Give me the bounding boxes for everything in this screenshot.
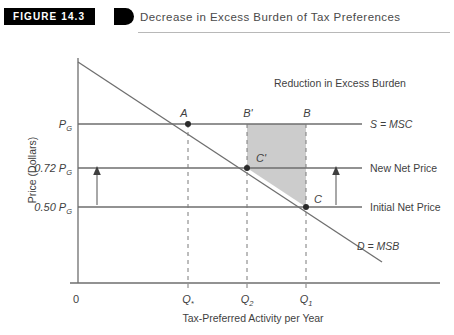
figure-number-tag: FIGURE 14.3 <box>4 8 95 25</box>
point-label-b-prime: B' <box>243 107 253 119</box>
point-marker-c <box>303 204 309 210</box>
price-increase-arrow-right <box>332 166 340 205</box>
y-tick-label-050-pg: 0.50 PG <box>34 201 72 216</box>
series-label-new-net-price: New Net Price <box>370 162 437 174</box>
series-label-demand-msb: D = MSB <box>357 240 399 252</box>
y-tick-label-072-pg: 0.72 PG <box>34 162 72 177</box>
svg-text:Q*: Q* <box>182 293 195 308</box>
price-increase-arrow-left <box>93 166 101 205</box>
x-axis-title: Tax-Preferred Activity per Year <box>182 312 324 324</box>
svg-text:Q2: Q2 <box>241 293 255 308</box>
svg-text:0.72 PG: 0.72 PG <box>34 162 72 177</box>
demand-curve-msb <box>78 62 382 262</box>
svg-text:PG: PG <box>59 118 72 133</box>
point-marker-a <box>185 121 191 127</box>
chart-plot-area: A B' B C' C Reduction in Excess Burden S… <box>0 30 454 335</box>
series-label-initial-net-price: Initial Net Price <box>370 201 441 213</box>
svg-text:0.50 PG: 0.50 PG <box>34 201 72 216</box>
point-label-c-prime: C' <box>256 152 267 164</box>
figure-container: FIGURE 14.3 Decrease in Excess Burden of… <box>0 0 454 335</box>
y-axis-title: Price (Dollars) <box>26 137 38 204</box>
series-label-supply-msc: S = MSC <box>370 118 413 130</box>
x-tick-label-q1: Q1 <box>300 293 313 308</box>
figure-tag-tail-decoration <box>114 8 134 25</box>
x-tick-label-q-star: Q* <box>182 293 195 308</box>
point-label-c: C <box>314 193 322 205</box>
point-label-a: A <box>179 107 187 119</box>
point-marker-c-prime <box>244 165 250 171</box>
y-tick-label-pg: PG <box>59 118 72 133</box>
region-caption-reduction-in-excess-burden: Reduction in Excess Burden <box>274 77 406 89</box>
x-tick-label-origin: 0 <box>73 293 79 305</box>
point-label-b: B <box>303 107 310 119</box>
x-tick-label-q2: Q2 <box>241 293 255 308</box>
shaded-region-reduction-in-excess-burden <box>247 124 306 207</box>
svg-text:Q1: Q1 <box>300 293 313 308</box>
figure-title: Decrease in Excess Burden of Tax Prefere… <box>140 11 401 23</box>
